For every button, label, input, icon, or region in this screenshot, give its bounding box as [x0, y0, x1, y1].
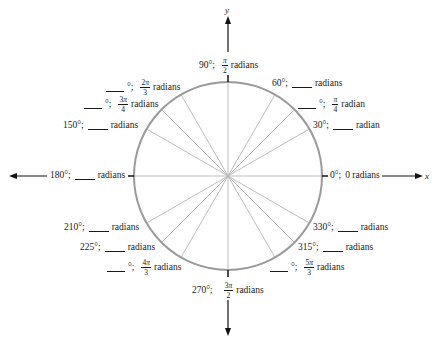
- label-60: 60°; radians: [272, 79, 342, 89]
- label-180: 180°; radians: [50, 171, 125, 181]
- label-150: 150°; radians: [63, 121, 138, 131]
- spoke-240-deg: [181, 176, 228, 257]
- answer-blank-rad-210[interactable]: [89, 224, 109, 232]
- deg-315: 315°;: [298, 243, 319, 253]
- answer-blank-rad-225[interactable]: [105, 244, 125, 252]
- rad-word-240: radians: [154, 263, 181, 273]
- rad-word-270: radians: [236, 286, 263, 296]
- rad-fraction-90: π2: [222, 57, 228, 74]
- deg-330: 330°;: [313, 223, 334, 233]
- label-120: °; 2π3 radians: [106, 79, 180, 96]
- answer-blank-rad-330[interactable]: [338, 224, 358, 232]
- label-135: °; 3π4 radians: [84, 96, 158, 113]
- answer-blank-deg-120[interactable]: [106, 84, 124, 92]
- answer-blank-rad-180[interactable]: [75, 172, 95, 180]
- answer-blank-rad-315[interactable]: [323, 244, 343, 252]
- label-240: °; 4π3 radians: [107, 259, 181, 276]
- label-300: °; 5π3 radians: [270, 259, 344, 276]
- rad-30: radian: [356, 121, 380, 131]
- rad-word-90: radians: [231, 61, 258, 71]
- spoke-120-deg: [181, 95, 228, 176]
- spoke-315-deg: [228, 176, 295, 243]
- y-axis-label: y: [225, 5, 229, 15]
- label-45: °; π4 radian: [298, 96, 365, 113]
- rad-fraction-45: π4: [332, 96, 338, 113]
- answer-blank-deg-240[interactable]: [107, 264, 125, 272]
- answer-blank-deg-135[interactable]: [84, 101, 102, 109]
- deg-120: °;: [127, 83, 133, 93]
- rad-word-45: radian: [341, 100, 365, 110]
- spoke-225-deg: [162, 176, 229, 243]
- deg-180: 180°;: [50, 171, 71, 181]
- rad-word-300: radians: [317, 263, 344, 273]
- rad-315: radians: [346, 243, 373, 253]
- label-330: 330°; radians: [313, 223, 388, 233]
- answer-blank-rad-150[interactable]: [88, 122, 108, 130]
- rad-225: radians: [128, 243, 155, 253]
- deg-225: 225°;: [80, 243, 101, 253]
- spoke-135-deg: [162, 110, 229, 177]
- label-30: 30°; radian: [313, 121, 380, 131]
- rad-60: radians: [315, 79, 342, 89]
- deg-150: 150°;: [63, 121, 84, 131]
- deg-240: °;: [128, 263, 134, 273]
- rad-fraction-240: 4π3: [141, 259, 151, 276]
- deg-0: 0°;: [330, 171, 341, 181]
- label-210: 210°; radians: [64, 223, 139, 233]
- spoke-45-deg: [228, 110, 295, 177]
- deg-30: 30°;: [313, 121, 329, 131]
- answer-blank-rad-30[interactable]: [333, 122, 353, 130]
- spoke-330-deg: [228, 176, 309, 223]
- y-axis-top-arrowhead: [225, 16, 231, 24]
- answer-blank-rad-60[interactable]: [292, 80, 312, 88]
- rad-0: 0 radians: [345, 171, 380, 181]
- answer-blank-deg-300[interactable]: [270, 264, 288, 272]
- deg-135: °;: [105, 100, 111, 110]
- deg-270: 270°;: [192, 286, 213, 296]
- label-90: 90°; π2 radians: [199, 57, 258, 74]
- answer-blank-deg-45[interactable]: [298, 101, 316, 109]
- deg-300: °;: [291, 263, 297, 273]
- label-315: 315°; radians: [298, 243, 373, 253]
- x-axis-right-arrowhead: [415, 173, 423, 179]
- rad-180: radians: [98, 171, 125, 181]
- label-0: 0°; 0 radians: [330, 171, 380, 181]
- spoke-300-deg: [228, 176, 275, 257]
- x-axis-label: x: [425, 171, 429, 181]
- rad-150: radians: [111, 121, 138, 131]
- x-axis-left-arrowhead: [9, 173, 17, 179]
- rad-fraction-135: 3π4: [118, 96, 128, 113]
- rad-fraction-300: 5π3: [304, 259, 314, 276]
- rad-word-135: radians: [131, 100, 158, 110]
- deg-60: 60°;: [272, 79, 288, 89]
- spoke-60-deg: [228, 95, 275, 176]
- spoke-210-deg: [147, 176, 228, 223]
- rad-fraction-270: 3π2: [224, 282, 234, 299]
- rad-330: radians: [361, 223, 388, 233]
- label-225: 225°; radians: [80, 243, 155, 253]
- label-270: 270°; 3π2 radians: [192, 282, 264, 299]
- rad-210: radians: [112, 223, 139, 233]
- rad-fraction-120: 2π3: [140, 79, 150, 96]
- deg-45: °;: [319, 100, 325, 110]
- y-axis-bottom-arrowhead: [225, 328, 231, 336]
- rad-word-120: radians: [153, 83, 180, 93]
- spoke-30-deg: [228, 129, 309, 176]
- deg-90: 90°;: [199, 61, 215, 71]
- spoke-150-deg: [147, 129, 228, 176]
- deg-210: 210°;: [64, 223, 85, 233]
